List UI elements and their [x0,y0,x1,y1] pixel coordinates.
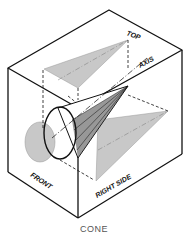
label-top: TOP [126,29,142,41]
front-view-projection [25,122,55,162]
figure-caption: CONE [0,224,188,234]
box-bottom-right-edge [78,154,182,218]
cone-projection-diagram: TOP AXIS FRONT RIGHT SIDE [0,0,188,222]
right-side-projection [96,111,168,181]
